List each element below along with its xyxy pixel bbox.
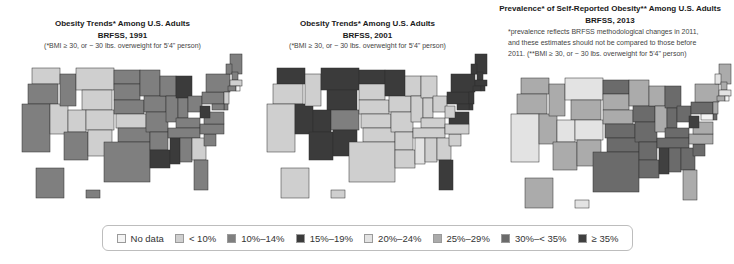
state-nc xyxy=(200,124,224,134)
state-ak xyxy=(281,168,309,198)
state-nj xyxy=(224,92,229,104)
state-ok xyxy=(607,138,639,152)
state-pa xyxy=(691,102,713,114)
legend-swatch xyxy=(364,234,373,243)
state-vt xyxy=(471,64,477,74)
state-al xyxy=(180,138,192,162)
panel-note-line: *prevalence reflects BRFSS methodologica… xyxy=(508,26,699,37)
legend-swatch xyxy=(578,234,587,243)
state-co xyxy=(86,110,114,130)
state-la xyxy=(150,150,170,168)
state-ms xyxy=(415,138,425,164)
state-nd xyxy=(114,70,140,84)
state-ks xyxy=(605,124,635,138)
state-ut xyxy=(557,120,575,142)
state-wa xyxy=(32,68,60,84)
state-wv xyxy=(445,106,455,118)
state-nj xyxy=(713,102,718,114)
state-mo xyxy=(391,112,413,132)
state-or xyxy=(517,94,547,114)
state-sc xyxy=(449,134,461,146)
state-ct xyxy=(473,86,481,91)
state-hi xyxy=(575,200,589,208)
state-wy xyxy=(82,90,112,110)
state-ky xyxy=(421,118,445,128)
us-map-1991 xyxy=(0,40,245,215)
state-md xyxy=(212,104,224,110)
state-fl xyxy=(439,160,453,190)
state-ri xyxy=(725,96,729,101)
legend-swatch xyxy=(175,234,184,243)
state-fl xyxy=(194,160,208,190)
panel-title: Obesity Trends* Among U.S. Adults xyxy=(245,19,490,28)
legend-label: ≥ 35% xyxy=(592,233,619,244)
us-map-2013 xyxy=(489,50,734,225)
panel-title: Obesity Trends* Among U.S. Adults xyxy=(0,19,245,28)
state-ar xyxy=(639,142,657,160)
state-nh xyxy=(477,72,483,80)
state-ny xyxy=(451,74,475,92)
state-id xyxy=(549,84,565,116)
state-co xyxy=(331,110,359,130)
legend-swatch xyxy=(433,234,442,243)
state-mt xyxy=(76,68,114,90)
state-tx xyxy=(349,142,395,182)
state-nd xyxy=(359,70,385,84)
state-ca xyxy=(511,114,539,162)
state-nh xyxy=(232,72,238,80)
legend-label: 20%–24% xyxy=(378,233,421,244)
state-ok xyxy=(363,128,395,142)
state-al xyxy=(425,138,437,162)
state-de xyxy=(713,114,717,120)
us-map-2001 xyxy=(245,40,490,215)
state-nv xyxy=(539,114,557,144)
state-ak xyxy=(36,168,64,198)
state-hi xyxy=(86,190,100,198)
state-tx xyxy=(593,152,639,192)
state-al xyxy=(669,148,681,172)
panel-subtitle: BRFSS, 1991 xyxy=(0,31,245,40)
state-mo xyxy=(146,112,168,132)
state-ok xyxy=(118,128,150,142)
state-ar xyxy=(395,132,413,150)
state-de xyxy=(469,104,473,110)
legend-item-15-19: 15%–19% xyxy=(296,233,353,244)
state-pa xyxy=(447,92,469,104)
legend-item-gte35: ≥ 35% xyxy=(578,233,619,244)
state-in xyxy=(423,98,433,118)
state-nv xyxy=(50,104,68,134)
state-fl xyxy=(683,170,697,200)
legend-item-30-35: 30%–< 35% xyxy=(501,233,567,244)
state-ma xyxy=(475,80,487,86)
state-ut xyxy=(313,110,331,132)
legend-label: 10%–14% xyxy=(241,233,284,244)
state-sc xyxy=(693,144,705,156)
state-mi xyxy=(176,76,192,98)
state-tn xyxy=(657,138,689,148)
state-ms xyxy=(659,148,669,174)
state-or xyxy=(273,84,303,104)
state-sd xyxy=(114,84,140,100)
state-la xyxy=(639,160,659,178)
state-ia xyxy=(389,96,411,112)
state-ia xyxy=(633,106,655,122)
state-ks xyxy=(361,114,391,128)
state-mi xyxy=(665,86,681,108)
state-nh xyxy=(721,82,727,90)
state-az xyxy=(553,142,577,170)
legend-label: 30%–< 35% xyxy=(515,233,567,244)
legend-label: 15%–19% xyxy=(310,233,353,244)
state-wi xyxy=(405,76,421,96)
state-mt xyxy=(565,78,603,100)
state-mt xyxy=(321,68,359,90)
state-la xyxy=(395,150,415,168)
state-id xyxy=(305,74,321,106)
state-ak xyxy=(525,178,553,208)
state-co xyxy=(575,120,603,140)
state-hi xyxy=(331,190,345,198)
legend-swatch xyxy=(501,234,510,243)
state-wa xyxy=(277,68,305,84)
state-nc xyxy=(445,124,469,134)
panel-subtitle: BRFSS, 2013 xyxy=(486,16,734,25)
legend-label: 25%–29% xyxy=(447,233,490,244)
